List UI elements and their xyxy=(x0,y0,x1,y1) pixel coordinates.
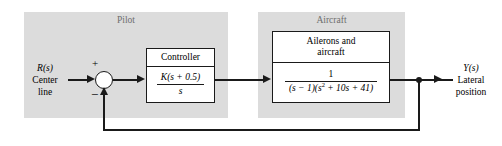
arrowhead-output xyxy=(434,75,442,83)
wire-feedback-horizontal xyxy=(103,129,420,131)
block-aircraft-title-line1: Ailerons and xyxy=(275,36,387,47)
controller-denominator: s xyxy=(157,85,204,97)
input-signal-line1: Center xyxy=(22,74,68,86)
wire-controller-to-aircraft xyxy=(215,79,264,81)
controller-transfer-function: K(s + 0.5) s xyxy=(157,72,204,97)
block-aircraft-title-line2: aircraft xyxy=(275,47,387,58)
summing-junction-plus-sign: + xyxy=(92,58,98,69)
block-ailerons-and-aircraft: Ailerons and aircraft 1 (s − 1)(s2 + 10s… xyxy=(272,31,390,103)
arrowhead-sum-to-controller xyxy=(137,75,145,83)
aircraft-denominator: (s − 1)(s2 + 10s + 41) xyxy=(285,82,377,94)
output-signal-symbol: Y(s) xyxy=(443,62,499,74)
block-controller-body: K(s + 0.5) s xyxy=(147,67,214,102)
wire-input-to-sum xyxy=(68,79,88,81)
region-label-aircraft: Aircraft xyxy=(258,15,405,25)
aircraft-transfer-function: 1 (s − 1)(s2 + 10s + 41) xyxy=(285,69,377,94)
aircraft-denominator-prefix: (s − 1)(s xyxy=(289,83,322,93)
input-signal-label: R(s) Center line xyxy=(22,62,68,98)
arrowhead-controller-to-aircraft xyxy=(263,75,271,83)
controller-numerator: K(s + 0.5) xyxy=(157,72,204,85)
arrowhead-feedback-to-sum xyxy=(100,87,108,95)
aircraft-numerator: 1 xyxy=(285,69,377,82)
output-signal-line1: Lateral xyxy=(443,74,499,86)
block-aircraft-body: 1 (s − 1)(s2 + 10s + 41) xyxy=(273,63,389,100)
input-signal-line2: line xyxy=(22,86,68,98)
output-signal-line2: position xyxy=(443,86,499,98)
block-diagram-canvas: Pilot Aircraft R(s) Center line + − Cont… xyxy=(0,0,502,146)
input-signal-symbol-text: R(s) xyxy=(37,63,53,73)
wire-sum-to-controller xyxy=(113,79,138,81)
summing-junction-minus-sign: − xyxy=(91,88,98,101)
block-aircraft-title: Ailerons and aircraft xyxy=(273,32,389,63)
region-label-pilot: Pilot xyxy=(24,15,228,25)
input-signal-symbol: R(s) xyxy=(22,62,68,74)
output-signal-label: Y(s) Lateral position xyxy=(443,62,499,98)
block-controller: Controller K(s + 0.5) s xyxy=(146,48,215,103)
arrowhead-input-to-sum xyxy=(87,75,95,83)
wire-feedback-vertical-left xyxy=(103,94,105,131)
aircraft-denominator-suffix: + 10s + 41) xyxy=(325,83,373,93)
wire-feedback-vertical-right xyxy=(418,79,420,131)
output-signal-symbol-text: Y(s) xyxy=(463,63,478,73)
block-controller-title: Controller xyxy=(147,49,214,67)
